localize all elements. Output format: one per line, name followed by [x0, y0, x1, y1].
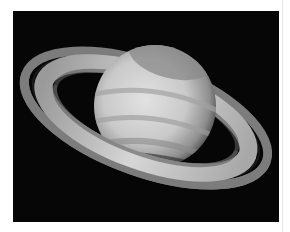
- page-edge-line: [282, 0, 283, 232]
- saturn-illustration: [13, 11, 279, 222]
- saturn-photo: [13, 11, 279, 222]
